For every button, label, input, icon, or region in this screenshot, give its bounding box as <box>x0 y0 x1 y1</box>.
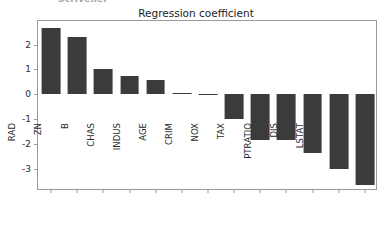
bar-lstat <box>356 94 375 185</box>
bar-zn <box>94 69 113 94</box>
regression-coefficient-chart: Scrivener Regression coefficient 210-1-2… <box>0 0 392 251</box>
x-tick-mark <box>155 189 156 193</box>
x-tick-label: INDUS <box>112 123 122 193</box>
x-tick-mark <box>129 189 130 193</box>
x-tick-label: AGE <box>138 123 148 193</box>
x-tick-mark <box>208 189 209 193</box>
bar-chas <box>146 80 165 94</box>
bar-slot <box>352 21 378 189</box>
y-tick-label: -3 <box>22 164 31 174</box>
x-tick-label: RAD <box>7 123 17 193</box>
y-tick-label: 2 <box>25 40 31 50</box>
bar-crim <box>225 94 244 119</box>
x-tick-mark <box>181 189 182 193</box>
bar-rad <box>68 37 87 94</box>
x-tick-mark <box>103 189 104 193</box>
bar-dis <box>329 94 348 168</box>
chart-title: Regression coefficient <box>0 7 392 19</box>
x-tick-mark <box>338 189 339 193</box>
x-tick-label: LSTAT <box>295 123 305 193</box>
y-tick-label: -1 <box>22 114 31 124</box>
x-tick-label: ZN <box>33 123 43 193</box>
bar-indus <box>172 93 191 94</box>
x-tick-mark <box>77 189 78 193</box>
x-tick-mark <box>286 189 287 193</box>
x-tick-label: PTRATIO <box>243 123 253 193</box>
y-tick-label: 1 <box>25 64 31 74</box>
x-tick-mark <box>234 189 235 193</box>
bar-ptratio <box>303 94 322 152</box>
x-tick-mark <box>51 189 52 193</box>
x-tick-label: DIS <box>269 123 279 193</box>
x-tick-label: TAX <box>216 123 226 193</box>
clipped-window-title: Scrivener <box>58 0 108 4</box>
x-tick-label: B <box>60 123 70 193</box>
x-tick-mark <box>260 189 261 193</box>
bar-slot <box>326 21 352 189</box>
x-tick-label: NOX <box>190 123 200 193</box>
bar-tax <box>277 94 296 140</box>
bar-age <box>199 94 218 95</box>
x-tick-mark <box>364 189 365 193</box>
bar-b <box>120 76 139 94</box>
x-tick-label: CRIM <box>164 123 174 193</box>
y-tick-label: -2 <box>22 139 31 149</box>
bar-nox <box>251 94 270 140</box>
y-tick-label: 0 <box>25 89 31 99</box>
x-tick-label: CHAS <box>86 123 96 193</box>
x-tick-mark <box>312 189 313 193</box>
bar-rm <box>42 28 61 94</box>
plot-area: 210-1-2-3 RMRADZNBCHASINDUSAGECRIMNOXTAX… <box>37 20 377 190</box>
